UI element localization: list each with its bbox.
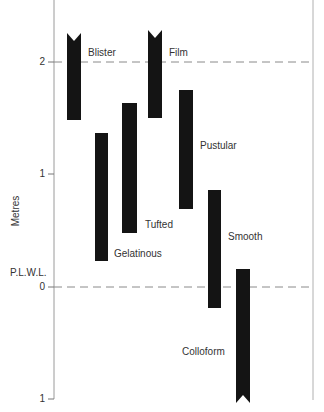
y-axis-label: Metres xyxy=(11,193,21,229)
label-blister: Blister xyxy=(88,48,116,58)
plwl-label: P.L.W.L. xyxy=(10,268,47,278)
bar-tufted xyxy=(122,103,137,233)
bar-film xyxy=(148,30,162,118)
label-smooth: Smooth xyxy=(228,232,262,242)
label-colloform: Colloform xyxy=(182,347,225,357)
tick-label-0: 0 xyxy=(33,282,45,292)
chart-canvas xyxy=(0,0,324,412)
tick-label-2: 2 xyxy=(33,57,45,67)
label-pustular: Pustular xyxy=(200,141,237,151)
label-film: Film xyxy=(169,48,188,58)
bar-colloform xyxy=(236,269,250,403)
label-gelatinous: Gelatinous xyxy=(114,249,162,259)
bar-smooth xyxy=(208,190,221,308)
tick-label-1: 1 xyxy=(33,169,45,179)
bar-gelatinous xyxy=(95,133,108,261)
label-tufted: Tufted xyxy=(145,220,173,230)
bar-pustular xyxy=(179,90,193,209)
tick-label-minus-1: 1 xyxy=(33,394,45,404)
bar-blister xyxy=(67,33,81,120)
